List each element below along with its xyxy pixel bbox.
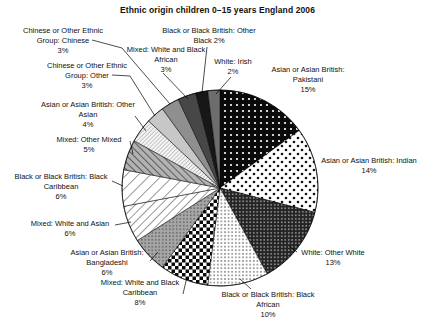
- pie-label-bangladeshi: Asian or Asian British: Bangladeshi6%: [71, 248, 144, 278]
- slice-percent: 2%: [214, 67, 252, 77]
- pie-label-black-african: Black or Black British: Black African10%: [222, 290, 315, 320]
- slice-label: Chinese or Other Ethnic Group: Other: [47, 61, 127, 80]
- slice-label: Mixed: Other Mixed: [56, 135, 121, 144]
- pie-label-white-asian: Mixed: White and Asian6%: [31, 219, 109, 239]
- slice-label: Mixed: White and Black Caribbean: [101, 278, 179, 297]
- slice-label: Asian or Asian British: Bangladeshi: [71, 248, 144, 267]
- leader-line: [112, 181, 123, 186]
- pie-label-other-mixed: Mixed: Other Mixed5%: [56, 135, 121, 155]
- pie-label-other-black: Black or Black British: Other Black2%: [162, 26, 255, 46]
- pie-label-white-black-african: Mixed: White and Black African3%: [127, 45, 205, 75]
- slice-label: Mixed: White and Black African: [127, 45, 205, 64]
- leader-line: [135, 116, 146, 131]
- slice-label: White: Other White: [301, 248, 364, 257]
- slice-label: Asian or Asian British: Indian: [321, 156, 416, 165]
- slice-label: Asian or Asian British: Other Asian: [41, 100, 135, 119]
- slice-label: Asian or Asian British: Pakistani: [272, 65, 345, 84]
- pie-label-black-caribbean: Black or Black British: Black Caribbean6…: [15, 172, 108, 202]
- slice-percent: 10%: [222, 310, 315, 320]
- slice-label: Black or Black British: Other Black: [162, 26, 255, 45]
- pie-label-indian: Asian or Asian British: Indian14%: [321, 156, 416, 176]
- pie-label-irish: White: Irish2%: [214, 57, 252, 77]
- slice-percent: 3%: [127, 65, 205, 75]
- pie-label-white-black-caribbean: Mixed: White and Black Caribbean8%: [101, 278, 179, 308]
- slice-percent: 6%: [71, 268, 144, 278]
- slice-percent: 6%: [15, 192, 108, 202]
- slice-percent: 14%: [321, 166, 416, 176]
- slice-label: Mixed: White and Asian: [31, 219, 109, 228]
- slice-label: Black or Black British: Black African: [222, 290, 315, 309]
- slice-percent: 2%: [214, 36, 225, 45]
- slice-label: White: Irish: [214, 57, 252, 66]
- slice-percent: 15%: [272, 85, 345, 95]
- pie-label-pakistani: Asian or Asian British: Pakistani15%: [272, 65, 345, 95]
- slice-label: Chinese or Other Ethnic Group: Chinese: [23, 26, 103, 45]
- slice-percent: 13%: [301, 258, 364, 268]
- slice-percent: 6%: [31, 229, 109, 239]
- slice-percent: 5%: [56, 145, 121, 155]
- slice-percent: 4%: [41, 120, 135, 130]
- leader-line: [163, 73, 188, 99]
- slice-percent: 8%: [101, 298, 179, 308]
- slice-percent: 3%: [47, 81, 127, 91]
- pie-label-chinese-other-other: Chinese or Other Ethnic Group: Other3%: [47, 61, 127, 91]
- slice-label: Black or Black British: Black Caribbean: [15, 172, 108, 191]
- slice-percent: 3%: [23, 46, 103, 56]
- pie-label-other-asian: Asian or Asian British: Other Asian4%: [41, 100, 135, 130]
- pie-chart-figure: Ethnic origin children 0–15 years Englan…: [0, 0, 435, 326]
- pie-label-chinese-other-chinese: Chinese or Other Ethnic Group: Chinese3%: [23, 26, 103, 56]
- pie-label-other-white: White: Other White13%: [301, 248, 364, 268]
